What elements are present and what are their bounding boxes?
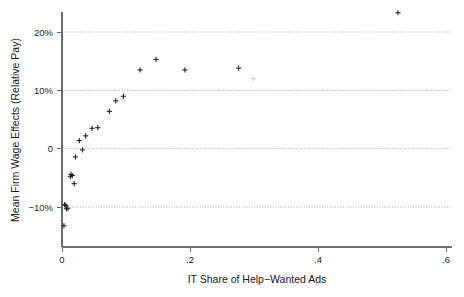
data-point [113, 98, 118, 103]
plot-canvas: 20% 10% 0 −10% Mean Firm Wage Effects (R… [0, 0, 464, 297]
data-point [83, 133, 88, 138]
data-point [137, 67, 142, 72]
x-tick-label-04: .4 [314, 254, 322, 265]
scatter-plot-figure: 20% 10% 0 −10% Mean Firm Wage Effects (R… [0, 0, 464, 297]
data-point-series [61, 10, 400, 228]
x-tick-label-06: .6 [442, 254, 450, 265]
data-point [251, 76, 256, 81]
data-point [107, 109, 112, 114]
data-point [95, 125, 100, 130]
data-point [77, 138, 82, 143]
data-point [182, 67, 187, 72]
y-axis: 20% 10% 0 −10% Mean Firm Wage Effects (R… [9, 12, 62, 247]
data-point [73, 154, 78, 159]
y-tick-label-10pct: 10% [34, 85, 54, 96]
y-tick-label-0pct: 0 [48, 143, 53, 154]
x-tick-label-02: .2 [186, 254, 194, 265]
x-axis: 0 .2 .4 .6 IT Share of Help−Wanted Ads [59, 247, 452, 285]
y-axis-title: Mean Firm Wage Effects (Relative Pay) [9, 38, 21, 222]
x-tick-label-0: 0 [59, 254, 64, 265]
data-point [153, 57, 158, 62]
data-point [121, 94, 126, 99]
data-point [72, 181, 77, 186]
gridlines [62, 32, 452, 207]
x-axis-title: IT Share of Help−Wanted Ads [188, 273, 327, 285]
y-tick-label-20pct: 20% [34, 27, 54, 38]
data-point [236, 66, 241, 71]
data-point [80, 147, 85, 152]
data-point [395, 10, 400, 15]
data-point [89, 126, 94, 131]
y-tick-label-neg10pct: −10% [28, 202, 53, 213]
